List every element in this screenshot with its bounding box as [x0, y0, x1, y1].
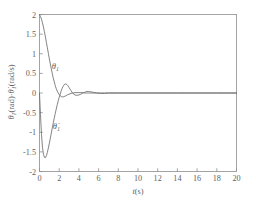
x-tick-label: 20: [232, 174, 240, 183]
x-tick-label: 10: [134, 174, 142, 183]
theta-1-label: θ1: [52, 61, 59, 72]
x-tick-label: 0: [37, 174, 41, 183]
x-tick-label: 4: [77, 174, 81, 183]
y-tick-label: 1: [32, 50, 36, 59]
y-tick-label: -0.5: [23, 109, 36, 118]
x-tick-label: 6: [97, 174, 101, 183]
data-series-group: [40, 15, 237, 158]
y-tick-label: 1.5: [26, 30, 36, 39]
x-tick-label: 18: [213, 174, 221, 183]
y-tick-label: -1: [29, 128, 36, 137]
y-tick-label: 2: [32, 11, 36, 20]
series-path: [40, 84, 237, 158]
x-tick-label: 2: [57, 174, 61, 183]
x-tick-label: 8: [116, 174, 120, 183]
y-tick-label: 0.5: [26, 69, 36, 78]
theta-dot-1-label: θ̇1: [53, 121, 60, 132]
curve-annotations: θ1θ̇1: [52, 61, 60, 132]
x-tick-label: 14: [173, 174, 181, 183]
series-path: [40, 15, 237, 97]
x-tick-label: 16: [193, 174, 201, 183]
figure-container: 0246810121416182021.510.50-0.5-1-1.5-2 θ…: [0, 0, 256, 206]
y-tick-label: -2: [29, 168, 36, 177]
x-axis-title: t(s): [132, 187, 143, 196]
line-chart: 0246810121416182021.510.50-0.5-1-1.5-2 θ…: [0, 0, 256, 206]
y-tick-label: -1.5: [23, 148, 36, 157]
y-axis-title: θ1(rad)·θ̇1(rad/s): [7, 64, 17, 119]
x-tick-label: 12: [154, 174, 162, 183]
y-tick-label: 0: [32, 89, 36, 98]
axis-tick-labels: 0246810121416182021.510.50-0.5-1-1.5-2: [23, 11, 241, 184]
